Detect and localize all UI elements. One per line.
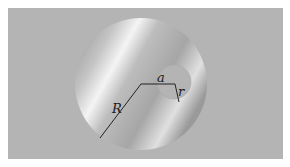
disk-with-hole-diagram: R a r	[0, 0, 290, 167]
label-r: r	[178, 84, 185, 99]
label-a: a	[157, 70, 165, 85]
label-R: R	[111, 101, 122, 116]
